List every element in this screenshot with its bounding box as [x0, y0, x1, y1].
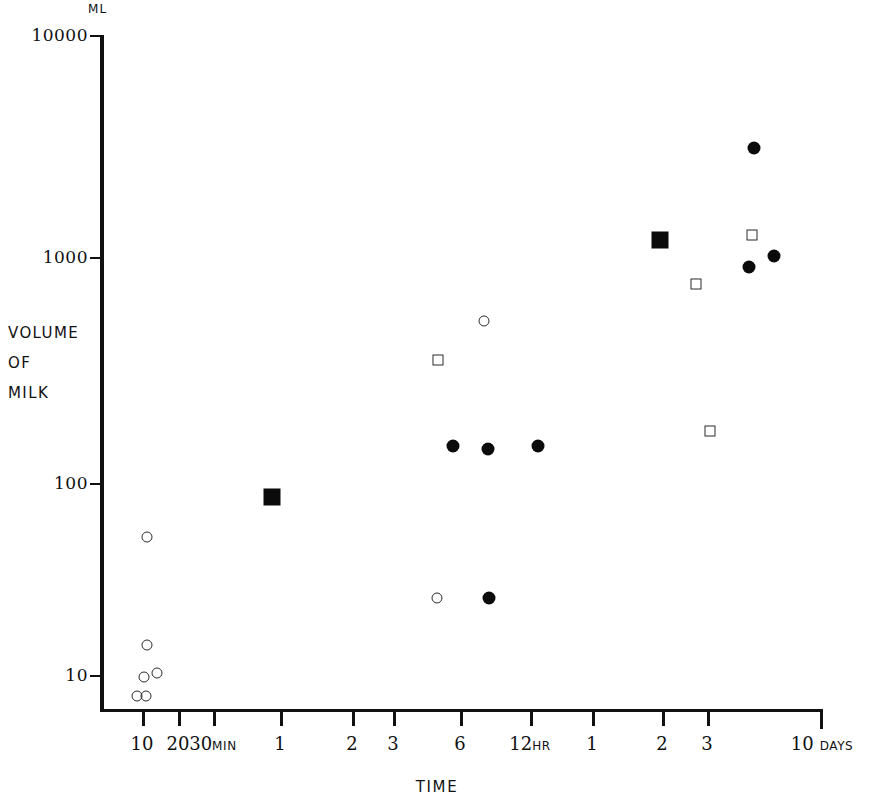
data-point-circle-open	[142, 532, 153, 543]
y-axis-title-line-1: VOLUME	[8, 318, 79, 348]
data-point-square-filled	[264, 489, 281, 506]
x-axis-tick-label: 10DAYS	[791, 733, 854, 754]
x-axis-tick-value: 30	[189, 733, 212, 754]
x-axis-tick-value: 1	[274, 733, 285, 754]
y-axis-title-line-2: OF	[8, 348, 79, 378]
x-axis-tick-value: 2	[346, 733, 357, 754]
y-axis-tick-mark	[90, 35, 104, 37]
y-axis-title-line-3: MILK	[8, 378, 79, 408]
x-axis-tick-label: 12HR	[509, 733, 550, 754]
y-axis-tick-label: 10	[65, 665, 88, 685]
data-point-square-open	[705, 426, 716, 437]
y-axis-tick-mark	[90, 257, 104, 259]
x-axis-tick-label: 30MIN	[189, 733, 237, 754]
scatter-chart-figure: ML 10000100010010 102030MIN123612HR12310…	[0, 0, 874, 806]
x-axis-tick-label: 3	[701, 733, 712, 754]
data-point-circle-open	[152, 668, 163, 679]
x-axis-tick-label: 10	[131, 733, 154, 754]
y-axis-title: VOLUME OF MILK	[8, 318, 79, 408]
x-axis-tick-value: 2	[656, 733, 667, 754]
x-axis-tick-label: 3	[387, 733, 398, 754]
data-point-circle-filled	[743, 261, 756, 274]
x-axis-tick-unit: HR	[532, 739, 551, 753]
data-point-circle-open	[432, 593, 443, 604]
x-axis-tick-mark	[178, 711, 181, 726]
data-point-circle-open	[142, 640, 153, 651]
data-point-circle-open	[139, 672, 150, 683]
x-axis-tick-value: 12	[509, 733, 532, 754]
x-axis-tick-mark	[662, 711, 665, 726]
y-axis-line	[100, 35, 104, 712]
x-axis-tick-value: 3	[387, 733, 398, 754]
y-axis-unit-label: ML	[88, 2, 107, 16]
x-axis-tick-value: 10	[131, 733, 154, 754]
x-axis-tick-label: 1	[274, 733, 285, 754]
y-axis-tick-label: 100	[54, 473, 88, 493]
y-axis-tick-mark	[90, 483, 104, 485]
x-axis-tick-unit: MIN	[212, 739, 237, 753]
x-axis-tick-mark	[460, 711, 463, 726]
y-axis-tick-label: 10000	[31, 25, 88, 45]
y-axis-tick-mark	[90, 675, 104, 677]
x-axis-tick-mark	[530, 711, 533, 726]
data-point-circle-filled	[483, 592, 496, 605]
x-axis-tick-value: 10	[791, 733, 814, 754]
data-point-square-open	[433, 355, 444, 366]
data-point-square-open	[691, 279, 702, 290]
x-axis-tick-label: 20	[167, 733, 190, 754]
x-axis-tick-value: 6	[454, 733, 465, 754]
x-axis-title: TIME	[0, 778, 874, 796]
data-point-circle-filled	[532, 440, 545, 453]
data-point-circle-open	[141, 691, 152, 702]
x-axis-tick-mark	[592, 711, 595, 726]
x-axis-tick-label: 6	[454, 733, 465, 754]
data-point-circle-filled	[748, 142, 761, 155]
data-point-square-open	[747, 230, 758, 241]
data-point-square-filled	[652, 232, 669, 249]
x-axis-tick-mark	[142, 711, 145, 726]
x-axis-end-cap	[820, 709, 823, 729]
x-axis-tick-value: 20	[167, 733, 190, 754]
data-point-circle-filled	[768, 250, 781, 263]
x-axis-tick-mark	[213, 711, 216, 726]
data-point-circle-open	[479, 316, 490, 327]
data-point-circle-filled	[447, 440, 460, 453]
x-axis-tick-unit: DAYS	[820, 739, 854, 753]
x-axis-tick-value: 1	[586, 733, 597, 754]
x-axis-tick-value: 3	[701, 733, 712, 754]
x-axis-tick-mark	[280, 711, 283, 726]
x-axis-tick-mark	[352, 711, 355, 726]
x-axis-tick-label: 2	[346, 733, 357, 754]
x-axis-tick-label: 2	[656, 733, 667, 754]
x-axis-tick-mark	[707, 711, 710, 726]
y-axis-tick-label: 1000	[43, 247, 88, 267]
x-axis-tick-label: 1	[586, 733, 597, 754]
x-axis-tick-mark	[393, 711, 396, 726]
data-point-circle-filled	[482, 443, 495, 456]
